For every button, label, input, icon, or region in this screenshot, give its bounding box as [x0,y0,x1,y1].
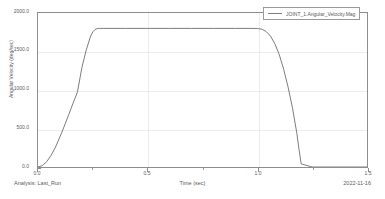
x-tick-label: 1.5 [356,171,380,176]
x-tick-label: 1.0 [246,171,270,176]
x-axis-minor-tick [313,168,314,170]
legend-entry-label: JOINT_1.Angular_Velocity.Mag [286,11,355,17]
series-curve [38,13,367,167]
y-tick-label: 500.0 [16,125,29,130]
x-tick-label: 0.5 [135,171,159,176]
plot-window: 2000.0 1500.0 1000.0 500.0 0.0 0.0 0.5 1… [0,0,385,199]
plot-date: 2022-11-16 [343,180,371,187]
x-axis-minor-tick [92,168,93,170]
analysis-label: Analysis: Last_Run [14,180,61,187]
legend[interactable]: JOINT_1.Angular_Velocity.Mag [263,7,360,20]
y-tick-label: 1000.0 [14,86,29,91]
x-tick-label: 0.0 [25,171,49,176]
y-tick-label: 1500.0 [14,47,29,52]
y-tick-label: 0.0 [22,164,29,169]
legend-line-swatch [268,13,282,14]
x-axis-minor-tick [203,168,204,170]
plot-area[interactable] [37,12,368,168]
y-tick-label: 2000.0 [14,9,29,14]
y-axis-title: Angular Velocity (deg/sec) [8,14,14,124]
